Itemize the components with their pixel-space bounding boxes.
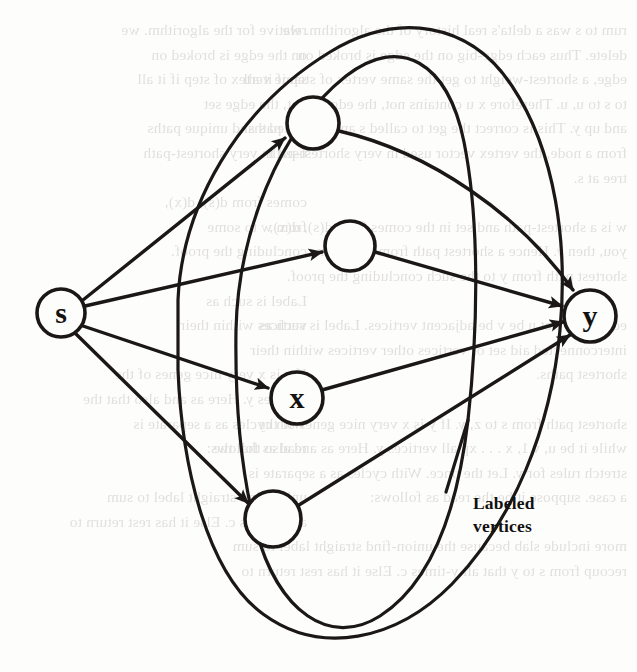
annotation-line-1: Labeled (473, 492, 535, 515)
graph-figure (0, 0, 637, 672)
edge-s-to-b (76, 334, 248, 503)
annotation-line-2: vertices (473, 515, 535, 538)
vertex-x (271, 372, 323, 424)
vertex-y (564, 290, 616, 342)
edge-s-to-x (83, 326, 268, 388)
vertex-unlabeled-bottom (245, 491, 301, 547)
edge-b-to-y (299, 335, 570, 505)
vertex-s (37, 289, 85, 337)
vertex-unlabeled-top (287, 97, 339, 149)
edge-m-to-y (375, 252, 562, 306)
vertex-unlabeled-middle (325, 221, 375, 271)
edge-x-to-y (322, 322, 563, 390)
edge-t-to-y (339, 131, 573, 290)
annotation-labeled-vertices: Labeled vertices (473, 492, 535, 538)
edge-s-to-m (85, 252, 322, 306)
figure-page: rum to s was a delta's real history of t… (0, 0, 637, 672)
